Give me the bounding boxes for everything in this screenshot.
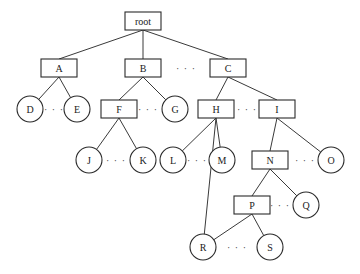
edge-P-S xyxy=(252,214,264,236)
node-label: F xyxy=(116,104,122,115)
edge-I-N xyxy=(270,118,277,151)
edge-P-R xyxy=(214,214,252,240)
edge-H-R xyxy=(204,118,216,234)
edge-I-O xyxy=(277,118,321,152)
node-label: I xyxy=(275,104,278,115)
node-label: G xyxy=(171,104,178,115)
node-c: C xyxy=(210,59,246,77)
node-label: M xyxy=(218,155,227,166)
node-label: K xyxy=(139,155,147,166)
node-label: root xyxy=(135,16,151,27)
node-f: F xyxy=(101,100,137,118)
node-s: S xyxy=(257,234,283,260)
edge-C-H xyxy=(216,77,228,100)
node-n: N xyxy=(252,151,288,169)
node-j: J xyxy=(76,147,102,173)
edge-A-E xyxy=(59,77,71,98)
node-d: D xyxy=(17,96,43,122)
node-b: B xyxy=(125,59,161,77)
node-m: M xyxy=(209,147,235,173)
edge-C-I xyxy=(228,77,277,100)
node-label: H xyxy=(212,104,219,115)
edge-N-P xyxy=(252,169,270,196)
edge-B-F xyxy=(119,77,143,100)
node-label: E xyxy=(74,104,80,115)
nodes-layer: rootABCDEFGHIJKLMNOPQRS xyxy=(17,12,344,260)
node-label: A xyxy=(55,63,63,74)
node-e: E xyxy=(64,96,90,122)
node-label: D xyxy=(26,104,33,115)
node-label: S xyxy=(267,242,273,253)
node-a: A xyxy=(41,59,77,77)
edge-root-C xyxy=(143,30,228,59)
tree-diagram: rootABCDEFGHIJKLMNOPQRS · · ·· · ·· · ··… xyxy=(0,0,360,274)
node-label: C xyxy=(225,63,232,74)
node-o: O xyxy=(318,147,344,173)
node-label: P xyxy=(249,200,255,211)
node-g: G xyxy=(162,96,188,122)
edge-F-J xyxy=(97,118,119,149)
ellipsis-marker: · · · xyxy=(44,104,64,115)
ellipsis-marker: · · · xyxy=(106,155,126,166)
node-label: B xyxy=(140,63,147,74)
node-label: R xyxy=(200,242,207,253)
edge-root-A xyxy=(59,30,143,59)
node-i: I xyxy=(259,100,295,118)
node-h: H xyxy=(198,100,234,118)
node-l: L xyxy=(160,147,186,173)
node-label: N xyxy=(266,155,273,166)
edge-A-D xyxy=(39,77,59,99)
edge-N-Q xyxy=(270,169,297,196)
node-k: K xyxy=(130,147,156,173)
node-label: L xyxy=(170,155,176,166)
ellipsis-marker: · · · xyxy=(138,104,158,115)
node-label: Q xyxy=(302,200,310,211)
ellipsis-marker: · · · xyxy=(295,155,315,166)
edge-H-M xyxy=(216,118,220,147)
node-root: root xyxy=(125,12,161,30)
node-p: P xyxy=(234,196,270,214)
edge-B-G xyxy=(143,77,166,100)
ellipsis-marker: · · · xyxy=(270,200,290,211)
ellipsis-marker: · · · xyxy=(227,242,247,253)
node-label: O xyxy=(327,155,334,166)
node-label: J xyxy=(87,155,91,166)
edge-H-L xyxy=(182,118,216,151)
edge-F-K xyxy=(119,118,137,149)
ellipsis-marker: · · · xyxy=(237,104,257,115)
node-q: Q xyxy=(293,192,319,218)
ellipsis-marker: · · · xyxy=(176,63,196,74)
node-r: R xyxy=(190,234,216,260)
ellipsis-marker: · · · xyxy=(187,155,207,166)
